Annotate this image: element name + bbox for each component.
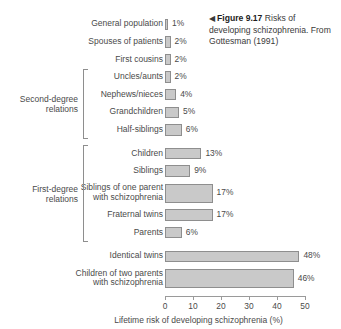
bar-value-label: 6%: [186, 228, 198, 237]
bar-value-label: 4%: [180, 90, 192, 99]
bar-value-label: 2%: [175, 72, 187, 81]
bar-category-label: Fraternal twins: [13, 210, 163, 219]
bar-value-label: 6%: [186, 125, 198, 134]
bar-category-label: Spouses of patients: [13, 37, 163, 46]
bar-value-label: 2%: [175, 55, 187, 64]
bar: [165, 36, 171, 47]
group-bracket: [83, 145, 88, 242]
bar: [165, 148, 201, 159]
axis-tick: [193, 296, 194, 300]
bar: [165, 184, 213, 203]
axis-tick: [165, 296, 166, 300]
group-label: First-degree relations: [0, 184, 78, 204]
bar-category-label: Siblings: [13, 166, 163, 175]
bar-value-label: 17%: [217, 188, 234, 197]
bar: [165, 54, 171, 65]
bar-value-label: 46%: [298, 274, 315, 283]
bar-row: Children of two parents with schizophren…: [0, 266, 341, 293]
bar-row: Uncles/aunts2%: [0, 69, 341, 87]
bar: [165, 165, 190, 176]
bar-value-label: 5%: [183, 107, 195, 116]
plot-area: General population1%Spouses of patients2…: [0, 16, 341, 292]
bar-value-label: 13%: [205, 149, 222, 158]
axis-tick-label: 10: [181, 301, 205, 311]
bar: [165, 124, 182, 135]
bar-row: General population1%: [0, 16, 341, 34]
bar: [165, 89, 176, 100]
bar-row: Parents6%: [0, 224, 341, 242]
bar: [165, 251, 299, 262]
bar-category-label: General population: [13, 19, 163, 28]
bar-row: Siblings9%: [0, 163, 341, 181]
bar-value-label: 2%: [175, 37, 187, 46]
axis-tick-label: 40: [265, 301, 289, 311]
bar-category-label: Children of two parents with schizophren…: [13, 269, 163, 288]
bar-category-label: Parents: [13, 228, 163, 237]
axis-tick: [277, 296, 278, 300]
group-label: Second-degree relations: [0, 94, 78, 114]
axis-tick: [249, 296, 250, 300]
bar: [165, 227, 182, 238]
x-axis: 01020304050 Lifetime risk of developing …: [0, 296, 341, 329]
axis-tick-label: 20: [209, 301, 233, 311]
bar-category-label: Uncles/aunts: [13, 72, 163, 81]
bar-row: First cousins2%: [0, 51, 341, 69]
bar-row: Spouses of patients2%: [0, 34, 341, 52]
axis-tick-label: 0: [153, 301, 177, 311]
bar-category-label: First cousins: [13, 55, 163, 64]
axis-tick: [221, 296, 222, 300]
bar: [165, 269, 294, 288]
bar-row: Identical twins48%: [0, 248, 341, 266]
bar-row: Children13%: [0, 145, 341, 163]
bar-category-label: Children: [13, 149, 163, 158]
bar: [165, 19, 168, 30]
axis-tick-label: 50: [293, 301, 317, 311]
axis-line: [165, 296, 305, 297]
group-bracket: [83, 69, 88, 139]
bar-chart: General population1%Spouses of patients2…: [0, 16, 341, 322]
x-axis-title: Lifetime risk of developing schizophreni…: [0, 315, 341, 325]
bar: [165, 107, 179, 118]
bar-value-label: 48%: [303, 251, 320, 260]
bar: [165, 71, 171, 82]
bar-row: Half-siblings6%: [0, 122, 341, 140]
bar-value-label: 9%: [194, 166, 206, 175]
bar-value-label: 17%: [217, 210, 234, 219]
bar-row: Fraternal twins17%: [0, 207, 341, 225]
bar-category-label: Identical twins: [13, 251, 163, 260]
bar: [165, 209, 213, 220]
axis-tick-label: 30: [237, 301, 261, 311]
axis-tick: [305, 296, 306, 300]
bar-value-label: 1%: [172, 19, 184, 28]
bar-category-label: Half-siblings: [13, 125, 163, 134]
